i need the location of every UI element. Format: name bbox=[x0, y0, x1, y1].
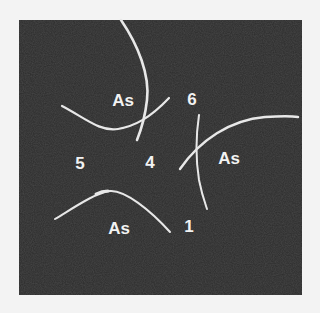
fiber-lines bbox=[0, 0, 320, 313]
label-one: 1 bbox=[184, 218, 193, 235]
label-as-top: As bbox=[112, 92, 134, 109]
label-four: 4 bbox=[145, 154, 154, 171]
label-six: 6 bbox=[187, 91, 196, 108]
label-as-right: As bbox=[218, 150, 240, 167]
fiber-curve-d bbox=[196, 115, 207, 209]
label-five: 5 bbox=[75, 155, 84, 172]
label-as-bottom: As bbox=[108, 220, 130, 237]
fiber-curve-a bbox=[121, 20, 147, 140]
